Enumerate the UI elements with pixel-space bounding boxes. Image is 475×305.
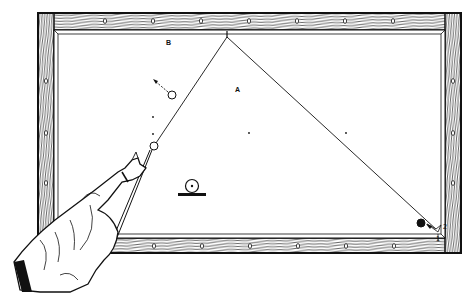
spot-marker <box>345 132 347 134</box>
spot-marker <box>152 133 154 135</box>
object-ball-black <box>417 219 425 227</box>
diamond-marker <box>344 244 347 249</box>
diamond-marker <box>296 244 299 249</box>
diamond-marker <box>451 79 454 84</box>
diamond-marker <box>343 19 346 24</box>
diamond-marker <box>247 19 250 24</box>
cue-ball <box>150 142 158 150</box>
playing-surface <box>54 30 445 238</box>
spot-marker <box>248 132 250 134</box>
label-b: B <box>166 39 171 46</box>
corner-mark-2: 2 <box>443 223 447 230</box>
diamond-marker <box>44 131 47 136</box>
diamond-marker <box>451 131 454 136</box>
spot-marker <box>152 116 154 118</box>
object-ball-white <box>168 91 176 99</box>
diamond-marker <box>151 19 154 24</box>
billiards-diagram: B A 1 2 <box>0 0 475 305</box>
diamond-marker <box>392 244 395 249</box>
diamond-marker <box>44 79 47 84</box>
diamond-marker <box>391 19 394 24</box>
diamond-marker <box>152 244 155 249</box>
diamond-marker <box>199 19 202 24</box>
diamond-marker <box>248 244 251 249</box>
diamond-marker <box>295 19 298 24</box>
label-a: A <box>235 86 240 93</box>
diamond-marker <box>103 19 106 24</box>
diamond-marker <box>44 181 47 186</box>
diamond-marker <box>200 244 203 249</box>
diamond-marker <box>451 181 454 186</box>
